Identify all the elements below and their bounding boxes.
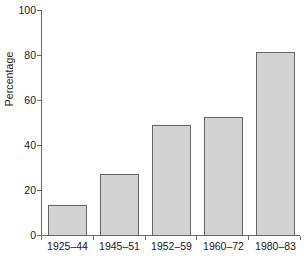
bar — [100, 174, 139, 236]
x-tick-mark — [93, 236, 94, 240]
x-tick-label: 1960–72 — [203, 241, 244, 252]
x-tick-label: 1980–83 — [255, 241, 296, 252]
x-tick-label: 1952–59 — [151, 241, 192, 252]
plot-area — [0, 0, 305, 262]
x-tick-mark — [196, 236, 197, 240]
bar — [204, 117, 243, 236]
bar — [152, 125, 191, 236]
x-tick-label: 1925–44 — [47, 241, 88, 252]
bar-chart: Percentage 020406080100 1925–441945–5119… — [0, 0, 305, 262]
x-tick-mark — [248, 236, 249, 240]
bar — [256, 52, 295, 236]
x-tick-mark — [145, 236, 146, 240]
bar — [48, 205, 87, 236]
x-tick-label: 1945–51 — [99, 241, 140, 252]
x-tick-mark — [300, 236, 301, 240]
x-tick-mark — [41, 236, 42, 240]
